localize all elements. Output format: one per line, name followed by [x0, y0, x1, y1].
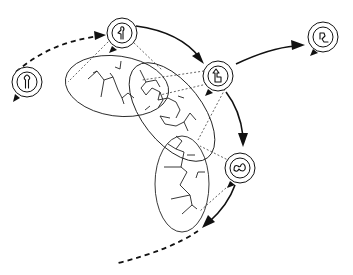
node-3 [203, 61, 233, 96]
arrowhead-icon [192, 52, 204, 64]
branch-line [178, 96, 184, 98]
node-2 [107, 18, 137, 53]
region-ellipse-1 [61, 49, 172, 123]
connector-line [198, 89, 225, 140]
transition-edges [16, 26, 305, 263]
branch-line [122, 98, 124, 104]
region-ellipse-3 [155, 136, 209, 232]
edge-3-to-5 [226, 92, 243, 136]
edge-2-to-3 [136, 26, 200, 58]
branch-line [101, 80, 104, 97]
branch-line [140, 70, 168, 100]
connector-line [68, 39, 111, 82]
branch-line [171, 195, 190, 199]
branch-line [168, 144, 176, 149]
connector-line [160, 84, 207, 95]
branch-line [168, 98, 180, 118]
edge-5-out-dashed [118, 231, 198, 263]
branch-line [110, 73, 113, 77]
node-1 [12, 67, 42, 102]
branch-line [115, 61, 121, 69]
arrowhead-icon [291, 40, 305, 50]
branch-line [196, 172, 205, 178]
arrowhead-icon [94, 31, 106, 40]
branch-line [176, 136, 192, 214]
arrowhead-icon [202, 215, 215, 228]
node-5 [225, 153, 255, 188]
edge-3-to-4 [236, 46, 295, 64]
branch-line [184, 122, 188, 131]
node-4 [308, 22, 338, 56]
connector-line [200, 146, 230, 161]
state-transition-diagram [0, 0, 353, 275]
edge-5-out-solid [209, 185, 235, 222]
branch-line [145, 106, 150, 110]
branch-line [192, 205, 197, 209]
arrowhead-icon [238, 133, 248, 147]
branch-line [146, 80, 160, 87]
connector-line [131, 40, 162, 70]
